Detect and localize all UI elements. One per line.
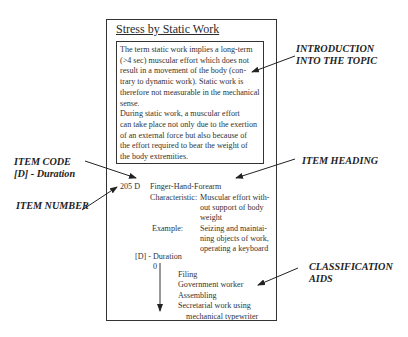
arrow-classification-aids — [258, 268, 298, 285]
arrow-introduction — [252, 56, 295, 72]
arrow-item-code — [85, 161, 136, 178]
arrow-item-number — [82, 187, 117, 210]
arrow-item-heading — [236, 159, 295, 178]
annotation-arrows — [0, 0, 408, 337]
